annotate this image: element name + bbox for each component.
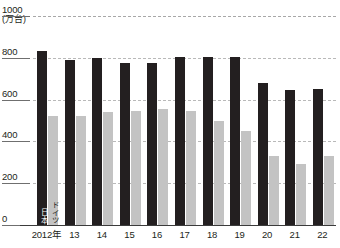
bar-japan [285,90,295,225]
bar-japan [230,57,240,225]
bar-germany [103,112,113,225]
bar-japan [65,60,75,225]
bar-japan [147,63,157,225]
y-tick-label-200: 200 [2,172,32,182]
bar-group: 日本ドイツ [37,16,58,225]
y-tick-rule-400 [2,141,30,142]
y-tick-rule-1000 [2,16,30,17]
bar-japan [120,63,130,225]
bar-germany [131,111,141,225]
legend-label-germany: ドイツ [48,201,58,224]
bar-group [230,16,251,225]
y-tick-label-400: 400 [2,130,32,140]
bar-japan [203,57,213,225]
bar-germany [186,111,196,225]
bar-group [175,16,196,225]
bar-group [313,16,334,225]
bar-japan [92,58,102,225]
bar-group [92,16,113,225]
x-axis-baseline [20,225,336,226]
bar-germany [269,156,279,225]
bar-germany [214,121,224,226]
bar-group [203,16,224,225]
y-tick-label-800: 800 [2,47,32,57]
bar-japan [37,51,47,226]
bar-germany [324,156,334,225]
bar-group [120,16,141,225]
bar-group [147,16,168,225]
bar-germany [241,131,251,225]
y-tick-rule-600 [2,100,30,101]
y-tick-label-0: 0 [2,214,32,224]
x-tick-label: 22 [302,229,340,240]
bar-chart: (万台) 日本ドイツ 02004006008001000 2012年131415… [0,0,340,248]
plot-area: 日本ドイツ [33,16,336,225]
bar-group [285,16,306,225]
bar-japan [175,57,185,225]
y-tick-rule-200 [2,183,30,184]
bar-japan [258,83,268,225]
bar-group [65,16,86,225]
y-tick-rule-800 [2,58,30,59]
bar-germany [158,109,168,225]
y-tick-label-1000: 1000 [2,5,32,15]
legend-label-japan: 日本 [37,208,47,223]
bar-group [258,16,279,225]
bar-germany [296,164,306,225]
bar-germany [76,116,86,225]
y-tick-label-600: 600 [2,89,32,99]
bar-japan [313,89,323,225]
